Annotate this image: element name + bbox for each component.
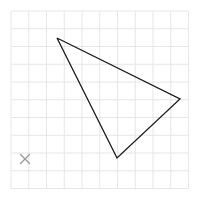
- geometry-drawing-surface[interactable]: [0, 0, 201, 198]
- geometry-canvas: [0, 0, 201, 198]
